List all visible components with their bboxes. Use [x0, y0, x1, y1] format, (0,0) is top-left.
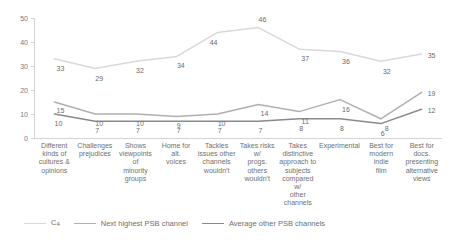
category-label-line: Shows: [116, 142, 155, 150]
data-point-label: 46: [258, 15, 266, 22]
data-point-label: 7: [218, 127, 222, 134]
x-axis-category-label: Takes risks w/progs. otherswouldn't: [237, 142, 278, 208]
x-axis-category-label: Best for docs.presentingalternativeviews: [401, 142, 442, 208]
category-label-line: voices: [157, 158, 196, 166]
series-line: [54, 92, 421, 118]
y-tick-label: 40: [4, 39, 28, 46]
legend-item[interactable]: C4: [24, 218, 60, 229]
data-point-label: 34: [177, 62, 185, 69]
category-label-line: views: [402, 175, 441, 183]
data-point-label: 12: [428, 107, 436, 114]
category-label-line: modern indie: [362, 150, 401, 166]
x-axis-category-label: Best formodern indiefilm: [361, 142, 402, 208]
data-point-label: 32: [136, 67, 144, 74]
data-point-label: 37: [301, 55, 309, 62]
data-point-label: 8: [299, 124, 303, 131]
y-tick-label: 50: [4, 15, 28, 22]
category-label-line: compared w/: [278, 175, 317, 191]
data-point-label: 6: [381, 129, 385, 136]
x-axis-category-label: Home for alt.voices: [156, 142, 197, 208]
category-label-line: viewpoints of: [116, 150, 155, 166]
x-axis-category-label: Experimental: [318, 142, 361, 208]
category-label-line: Takes risks w/: [238, 142, 277, 158]
data-point-label: 33: [56, 64, 64, 71]
series-line: [54, 28, 421, 69]
data-point-label: 8: [385, 124, 389, 131]
data-point-label: 32: [383, 68, 391, 75]
category-label-line: presenting: [402, 158, 441, 166]
category-label-line: approach to: [278, 158, 317, 166]
y-tick-label: 20: [4, 87, 28, 94]
legend-swatch-icon: [74, 223, 96, 224]
category-label-line: minority: [116, 167, 155, 175]
legend-item[interactable]: Next highest PSB channel: [74, 219, 188, 228]
data-point-label: 7: [95, 127, 99, 134]
category-label-line: wouldn't: [238, 175, 277, 183]
category-label-line: Home for alt.: [157, 142, 196, 158]
category-label-line: Best for docs.: [402, 142, 441, 158]
data-point-label: 35: [428, 52, 436, 59]
category-label-line: Challenges: [76, 142, 115, 150]
x-axis-category-labels: Differentkinds ofcultures &opinionsChall…: [34, 142, 442, 208]
category-label-line: opinions: [35, 167, 74, 175]
category-label-line: distinctive: [278, 150, 317, 158]
x-axis-line: [34, 138, 442, 139]
x-axis-category-label: Showsviewpoints ofminoritygroups: [115, 142, 156, 208]
legend-swatch-icon: [202, 223, 224, 224]
data-point-label: 10: [54, 120, 62, 127]
y-tick-label: 10: [4, 111, 28, 118]
legend-label: Next highest PSB channel: [101, 219, 188, 228]
category-label-line: Experimental: [319, 142, 360, 150]
category-label-line: alternative: [402, 167, 441, 175]
data-point-label: 16: [342, 105, 350, 112]
category-label-line: channels: [197, 158, 236, 166]
category-label-line: groups: [116, 175, 155, 183]
chart-container: 01020304050 3329323444463736323515101091…: [0, 0, 456, 248]
data-point-label: 7: [136, 127, 140, 134]
data-point-label: 15: [56, 107, 64, 114]
category-label-line: cultures &: [35, 158, 74, 166]
category-label-line: Tackles: [197, 142, 236, 150]
data-point-label: 29: [95, 75, 103, 82]
category-label-line: wouldn't: [197, 167, 236, 175]
data-point-label: 10: [218, 120, 226, 127]
data-point-label: 14: [260, 110, 268, 117]
category-label-line: Best for: [362, 142, 401, 150]
data-point-label: 19: [428, 90, 436, 97]
category-label-line: Takes: [278, 142, 317, 150]
x-axis-category-label: Differentkinds ofcultures &opinions: [34, 142, 75, 208]
x-axis-category-label: Tacklesissues otherchannelswouldn't: [196, 142, 237, 208]
category-label-line: prejudices: [76, 150, 115, 158]
category-label-line: channels: [278, 199, 317, 207]
legend-item[interactable]: Average other PSB channels: [202, 219, 325, 228]
x-axis-category-label: Takesdistinctiveapproach tosubjectscompa…: [277, 142, 318, 208]
data-point-label: 10: [136, 120, 144, 127]
legend-swatch-icon: [24, 223, 46, 224]
data-point-label: 11: [302, 117, 309, 124]
y-tick-label: 0: [4, 135, 28, 142]
data-point-label: 8: [340, 124, 344, 131]
category-label-line: kinds of: [35, 150, 74, 158]
category-label-line: subjects: [278, 167, 317, 175]
data-point-label: 7: [258, 127, 262, 134]
data-point-label: 36: [342, 57, 350, 64]
data-point-label: 7: [177, 127, 181, 134]
category-label-line: other: [278, 191, 317, 199]
data-point-label: 10: [95, 120, 103, 127]
category-label-line: Different: [35, 142, 74, 150]
plot-area: 01020304050 3329323444463736323515101091…: [34, 18, 442, 138]
y-tick-mark: [31, 138, 34, 139]
data-point-label: 44: [210, 39, 218, 46]
y-tick-label: 30: [4, 63, 28, 70]
x-axis-category-label: Challengesprejudices: [75, 142, 116, 208]
legend-label: C4: [51, 218, 60, 229]
chart-legend: C4Next highest PSB channelAverage other …: [24, 218, 339, 229]
category-label-line: progs. others: [238, 158, 277, 174]
category-label-line: issues other: [197, 150, 236, 158]
legend-label: Average other PSB channels: [229, 219, 325, 228]
category-label-line: film: [362, 167, 401, 175]
